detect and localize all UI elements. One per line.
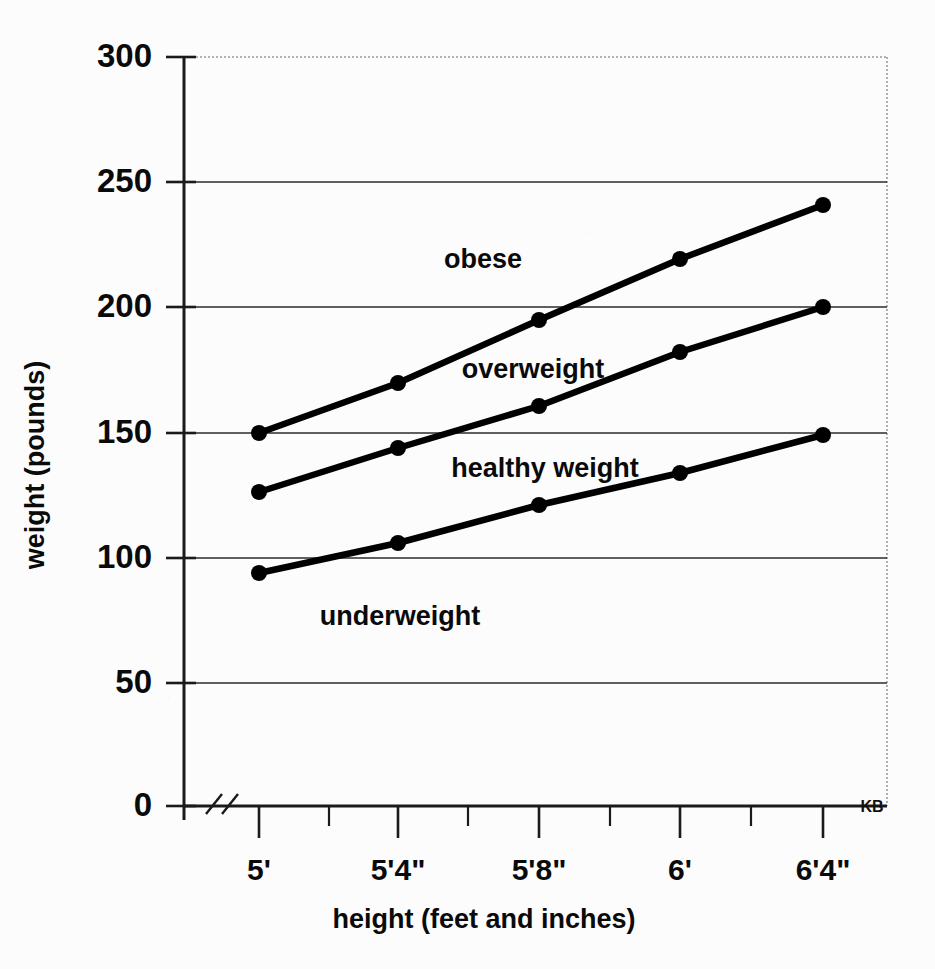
zone-label-underweight: underweight (320, 601, 481, 631)
data-point (251, 484, 267, 500)
y-tick-label-150: 150 (97, 413, 152, 450)
data-point (251, 425, 267, 441)
zone-label-healthy-weight: healthy weight (451, 453, 639, 483)
zone-label-obese: obese (444, 244, 522, 274)
data-point (251, 565, 267, 581)
data-point (815, 197, 831, 213)
data-point (390, 535, 406, 551)
data-point (672, 344, 688, 360)
y-tick-label-250: 250 (97, 162, 152, 199)
data-point (531, 312, 547, 328)
y-tick-label-100: 100 (97, 538, 152, 575)
data-point (815, 427, 831, 443)
y-tick-label-200: 200 (97, 287, 152, 324)
bmi-height-weight-chart: 300 250 200 150 100 50 0 5' 5'4" 5'8" 6'… (0, 0, 935, 969)
data-point (672, 465, 688, 481)
y-tick-label-0: 0 (134, 786, 152, 823)
chart-page: 300 250 200 150 100 50 0 5' 5'4" 5'8" 6'… (0, 0, 935, 969)
data-point (672, 251, 688, 267)
y-tick-label-50: 50 (115, 663, 152, 700)
data-point (531, 398, 547, 414)
zone-label-overweight: overweight (462, 354, 605, 384)
x-tick-label-2: 5'4" (371, 853, 426, 886)
corner-initials-mark: KB (860, 798, 883, 815)
x-tick-label-4: 6' (668, 853, 692, 886)
axis-break-slash-2 (222, 794, 238, 814)
y-tick-label-300: 300 (97, 37, 152, 74)
data-point (390, 375, 406, 391)
y-axis-title: weight (pounds) (20, 361, 50, 570)
x-tick-label-5: 6'4" (796, 853, 851, 886)
data-point (390, 440, 406, 456)
axis-break-slash-1 (206, 794, 222, 814)
x-tick-label-1: 5' (247, 853, 271, 886)
x-tick-label-3: 5'8" (512, 853, 567, 886)
data-point (815, 299, 831, 315)
data-point (531, 497, 547, 513)
x-axis-title: height (feet and inches) (332, 904, 635, 934)
